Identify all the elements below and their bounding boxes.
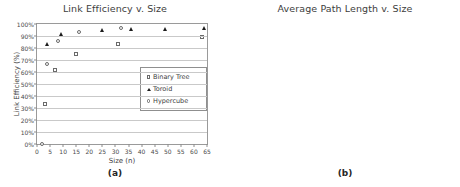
gridline	[37, 132, 207, 133]
data-point	[163, 27, 167, 31]
filled-triangle-icon	[144, 88, 153, 91]
open-circle-icon	[144, 99, 153, 103]
data-point	[40, 142, 44, 146]
y-tick-label: 50%	[21, 81, 34, 88]
x-tick-label: 25	[99, 148, 107, 155]
y-tick-mark	[34, 48, 37, 49]
y-tick-label: 80%	[21, 45, 34, 52]
y-tick-mark	[34, 72, 37, 73]
gridline	[37, 72, 207, 73]
x-tick-label: 0	[35, 148, 39, 155]
x-tick-label: 10	[59, 148, 67, 155]
legend-label: Hypercube	[153, 97, 188, 105]
chart-panel-b: Average Path Length v. Size avg_path_len…	[230, 0, 460, 187]
x-tick-label: 40	[138, 148, 146, 155]
chart-title-a: Link Efficiency v. Size	[0, 3, 230, 14]
legend-a[interactable]: Binary Tree Toroid Hypercube	[140, 67, 207, 111]
x-tick-mark	[115, 144, 116, 147]
gridline	[37, 48, 207, 49]
x-tick-mark	[207, 144, 208, 147]
data-point	[77, 30, 81, 34]
data-point	[56, 39, 60, 43]
x-tick-label: 30	[112, 148, 120, 155]
panel-caption-a: (a)	[0, 168, 230, 178]
data-point	[100, 28, 104, 32]
chart-panel-a: Link Efficiency v. Size Link Efficiency …	[0, 0, 230, 187]
legend-label: Toroid	[153, 85, 172, 93]
gridline	[37, 120, 207, 121]
y-tick-mark	[34, 96, 37, 97]
y-tick-mark	[34, 24, 37, 25]
data-point	[119, 26, 123, 30]
x-tick-label: 35	[125, 148, 133, 155]
x-tick-mark	[154, 144, 155, 147]
data-point	[45, 62, 49, 66]
data-point	[45, 42, 49, 46]
open-square-icon	[144, 75, 153, 79]
x-tick-mark	[141, 144, 142, 147]
x-tick-label: 5	[48, 148, 52, 155]
data-point	[116, 42, 120, 46]
y-tick-label: 0%	[24, 141, 34, 148]
x-axis-title-a: Size (n)	[37, 157, 207, 165]
chart-title-b: Average Path Length v. Size	[230, 3, 460, 14]
y-tick-label: 20%	[21, 117, 34, 124]
x-tick-label: 50	[164, 148, 172, 155]
x-tick-mark	[128, 144, 129, 147]
figure-root: Link Efficiency v. Size Link Efficiency …	[0, 0, 460, 187]
y-tick-mark	[34, 108, 37, 109]
gridline	[37, 36, 207, 37]
gridline	[37, 84, 207, 85]
gridline	[37, 96, 207, 97]
data-point	[74, 52, 78, 56]
y-tick-mark	[34, 84, 37, 85]
x-tick-mark	[167, 144, 168, 147]
x-tick-mark	[193, 144, 194, 147]
x-tick-mark	[102, 144, 103, 147]
y-tick-label: 100%	[17, 21, 34, 28]
x-tick-mark	[50, 144, 51, 147]
panel-caption-b: (b)	[230, 168, 460, 178]
y-tick-mark	[34, 60, 37, 61]
x-tick-label: 60	[190, 148, 198, 155]
x-tick-label: 20	[85, 148, 93, 155]
gridline	[37, 60, 207, 61]
y-tick-label: 90%	[21, 33, 34, 40]
gridline	[37, 108, 207, 109]
x-tick-mark	[76, 144, 77, 147]
y-tick-label: 40%	[21, 93, 34, 100]
x-tick-label: 65	[203, 148, 211, 155]
data-point	[129, 27, 133, 31]
plot-area-a: Link Efficiency (%) Size (n) Binary Tree…	[36, 23, 208, 145]
data-point	[43, 102, 47, 106]
x-tick-mark	[63, 144, 64, 147]
y-tick-mark	[34, 36, 37, 37]
y-tick-label: 70%	[21, 57, 34, 64]
y-tick-mark	[34, 120, 37, 121]
legend-label: Binary Tree	[153, 73, 190, 81]
data-point	[202, 26, 206, 30]
x-tick-label: 55	[177, 148, 185, 155]
x-tick-mark	[180, 144, 181, 147]
y-tick-label: 60%	[21, 69, 34, 76]
x-tick-label: 15	[72, 148, 80, 155]
y-tick-label: 10%	[21, 129, 34, 136]
x-tick-mark	[89, 144, 90, 147]
y-tick-mark	[34, 132, 37, 133]
x-tick-label: 45	[151, 148, 159, 155]
x-tick-mark	[37, 144, 38, 147]
y-tick-label: 30%	[21, 105, 34, 112]
